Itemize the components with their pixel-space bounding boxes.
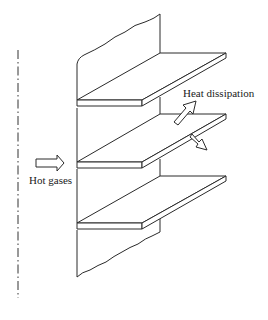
- hot-gases-label: Hot gases: [29, 174, 72, 186]
- diagram-canvas: Heat dissipation Hot gases: [0, 0, 268, 320]
- fin-2: [77, 114, 226, 168]
- fin-3: [77, 176, 226, 229]
- heat-dissipation-label: Heat dissipation: [183, 87, 255, 99]
- heat-dissipation-arrow-down: [190, 134, 207, 150]
- hot-gases-arrow: [36, 155, 64, 171]
